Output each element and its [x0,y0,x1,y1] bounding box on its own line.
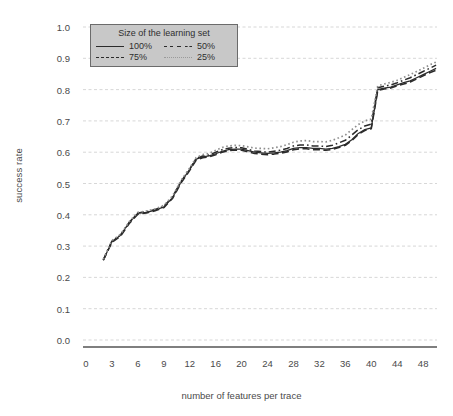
legend-entry-75: 75% [96,52,164,62]
series-line-75 [103,70,436,260]
legend-entry-100: 100% [96,41,164,51]
legend-label-25: 25% [197,52,215,62]
legend-row: 100% 50% [96,41,232,51]
legend-label-50: 50% [197,41,215,51]
chart-container: success rate number of features per trac… [0,0,453,416]
legend-entry-50: 50% [164,41,232,51]
legend-label-100: 100% [129,41,152,51]
series-line-100 [103,68,436,260]
legend: Size of the learning set 100% 50% 75% 25… [90,24,238,67]
line-style-dashed-icon [96,53,124,62]
series-line-50 [103,65,436,260]
legend-label-75: 75% [129,52,147,62]
line-style-solid-icon [96,42,124,51]
legend-entry-25: 25% [164,52,232,62]
line-style-dotted-icon [164,53,192,62]
legend-row: 75% 25% [96,52,232,62]
line-style-dashdot-icon [164,42,192,51]
series-line-25 [103,62,436,259]
legend-title: Size of the learning set [96,28,232,38]
